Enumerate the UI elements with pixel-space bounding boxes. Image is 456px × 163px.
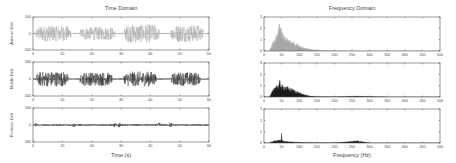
axes-box bbox=[264, 109, 440, 143]
x-tick-label: 250 bbox=[349, 99, 355, 103]
subplot-5: 0501001502002503003504004505000123 bbox=[260, 61, 443, 103]
x-tick-label: 50 bbox=[280, 145, 284, 149]
x-tick-label: 60 bbox=[207, 144, 211, 148]
x-tick-label: 100 bbox=[296, 53, 302, 57]
x-tick-label: 450 bbox=[419, 145, 425, 149]
y-tick-label: 3 bbox=[260, 61, 262, 65]
x-tick-label: 10 bbox=[60, 98, 64, 102]
x-tick-label: 350 bbox=[384, 145, 390, 149]
x-tick-label: 250 bbox=[349, 145, 355, 149]
x-tick-label: 20 bbox=[90, 144, 94, 148]
y-tick-label: 0 bbox=[29, 77, 31, 81]
plot-area bbox=[264, 24, 440, 51]
x-tick-label: 50 bbox=[178, 98, 182, 102]
plot-area bbox=[264, 80, 440, 97]
subplot-2: 0102030405060-5000500Middle Delt bbox=[9, 60, 211, 102]
y-tick-label: 3 bbox=[260, 107, 262, 111]
x-tick-label: 150 bbox=[314, 53, 320, 57]
x-tick-label: 450 bbox=[419, 53, 425, 57]
y-axis-label: Middle Delt bbox=[9, 68, 14, 89]
x-tick-label: 0 bbox=[263, 99, 265, 103]
y-tick-label: 0 bbox=[260, 49, 262, 53]
frequency-axis-label: Frequency (Hz) bbox=[333, 152, 371, 158]
x-tick-label: 10 bbox=[60, 144, 64, 148]
x-tick-label: 0 bbox=[32, 98, 34, 102]
x-tick-label: 50 bbox=[178, 52, 182, 56]
frequency-domain-panels: 0501001502002503003504004505000123050100… bbox=[260, 15, 443, 149]
y-tick-label: -500 bbox=[24, 94, 31, 98]
y-tick-label: 0 bbox=[29, 123, 31, 127]
x-tick-label: 350 bbox=[384, 53, 390, 57]
y-axis-label: Anterior Delt bbox=[9, 21, 14, 44]
plot-area bbox=[33, 72, 209, 87]
x-tick-label: 30 bbox=[119, 52, 123, 56]
time-domain-panels: 0102030405060-5000500Anterior Delt010203… bbox=[9, 15, 211, 148]
x-tick-label: 500 bbox=[437, 53, 443, 57]
x-tick-label: 450 bbox=[419, 99, 425, 103]
x-tick-label: 150 bbox=[314, 145, 320, 149]
x-tick-label: 60 bbox=[207, 52, 211, 56]
y-tick-label: 500 bbox=[25, 15, 31, 19]
y-tick-label: 1 bbox=[260, 130, 262, 134]
y-tick-label: 2 bbox=[260, 119, 262, 123]
subplot-1: 0102030405060-5000500Anterior Delt bbox=[9, 15, 211, 56]
x-tick-label: 100 bbox=[296, 99, 302, 103]
y-tick-label: 3 bbox=[260, 15, 262, 19]
x-tick-label: 350 bbox=[384, 99, 390, 103]
x-tick-label: 400 bbox=[402, 145, 408, 149]
x-tick-label: 300 bbox=[367, 145, 373, 149]
subplot-4: 0501001502002503003504004505000123 bbox=[260, 15, 443, 57]
plot-area bbox=[33, 123, 209, 128]
x-tick-label: 300 bbox=[367, 99, 373, 103]
y-tick-label: 0 bbox=[260, 141, 262, 145]
x-tick-label: 250 bbox=[349, 53, 355, 57]
x-tick-label: 0 bbox=[263, 53, 265, 57]
x-tick-label: 100 bbox=[296, 145, 302, 149]
x-tick-label: 40 bbox=[148, 52, 152, 56]
x-tick-label: 0 bbox=[263, 145, 265, 149]
y-tick-label: 500 bbox=[25, 106, 31, 110]
x-tick-label: 500 bbox=[437, 99, 443, 103]
x-tick-label: 20 bbox=[90, 98, 94, 102]
subplot-3: 0102030405060-5000500Posterior Delt bbox=[9, 106, 211, 148]
x-tick-label: 400 bbox=[402, 53, 408, 57]
y-tick-label: 500 bbox=[25, 60, 31, 64]
plot-area bbox=[33, 24, 209, 42]
x-tick-label: 500 bbox=[437, 145, 443, 149]
y-tick-label: -500 bbox=[24, 48, 31, 52]
y-tick-label: 0 bbox=[29, 32, 31, 36]
time-axis-label: Time (s) bbox=[111, 152, 131, 158]
x-tick-label: 30 bbox=[119, 144, 123, 148]
time-domain-title: Time Domain bbox=[105, 5, 138, 11]
emg-figure: 0102030405060-5000500Anterior Delt010203… bbox=[0, 0, 456, 163]
x-tick-label: 40 bbox=[148, 98, 152, 102]
x-tick-label: 200 bbox=[331, 99, 337, 103]
frequency-domain-title: Frequency Domain bbox=[329, 5, 375, 11]
x-tick-label: 200 bbox=[331, 53, 337, 57]
x-tick-label: 60 bbox=[207, 98, 211, 102]
x-tick-label: 20 bbox=[90, 52, 94, 56]
y-tick-label: 0 bbox=[260, 95, 262, 99]
subplot-6: 0501001502002503003504004505000123 bbox=[260, 107, 443, 149]
x-tick-label: 50 bbox=[178, 144, 182, 148]
x-tick-label: 0 bbox=[32, 52, 34, 56]
x-tick-label: 200 bbox=[331, 145, 337, 149]
x-tick-label: 400 bbox=[402, 99, 408, 103]
y-tick-label: 2 bbox=[260, 73, 262, 77]
x-tick-label: 150 bbox=[314, 99, 320, 103]
y-axis-label: Posterior Delt bbox=[9, 112, 14, 137]
y-tick-label: 2 bbox=[260, 27, 262, 31]
y-tick-label: 1 bbox=[260, 38, 262, 42]
x-tick-label: 300 bbox=[367, 53, 373, 57]
x-tick-label: 0 bbox=[32, 144, 34, 148]
x-tick-label: 50 bbox=[280, 53, 284, 57]
y-tick-label: 1 bbox=[260, 84, 262, 88]
x-tick-label: 40 bbox=[148, 144, 152, 148]
x-tick-label: 30 bbox=[119, 98, 123, 102]
x-tick-label: 50 bbox=[280, 99, 284, 103]
x-tick-label: 10 bbox=[60, 52, 64, 56]
y-tick-label: -500 bbox=[24, 140, 31, 144]
